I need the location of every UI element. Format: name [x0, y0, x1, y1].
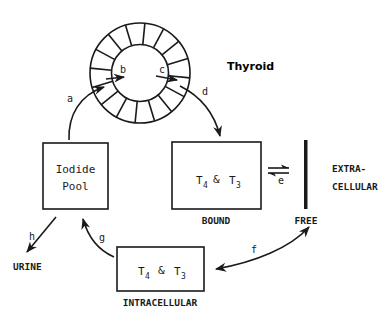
bound-caption: BOUND — [202, 215, 231, 226]
thyroid-cell-divider — [168, 76, 189, 78]
pathway-e-label: e — [278, 175, 284, 186]
intracellular-t4-sub: 4 — [145, 272, 150, 281]
thyroid-label: Thyroid — [227, 60, 274, 73]
thyroid-cell-divider — [116, 98, 126, 117]
bound-t4-sub: 4 — [203, 181, 208, 190]
bound-amp: & — [213, 173, 220, 186]
pathway-f-arrow — [216, 227, 309, 269]
intracellular-t4: T — [138, 265, 145, 278]
pathway-b-arrow — [106, 77, 124, 79]
thyroid-cell-divider — [162, 41, 179, 55]
thyroid-outer-ring — [90, 23, 190, 123]
pathway-g-label: g — [99, 232, 105, 243]
thyroid-cell-divider — [153, 29, 163, 48]
thyroid-cell-divider — [92, 81, 113, 87]
thyroid-cell-divider — [101, 91, 118, 105]
intracellular-t3-sub: 3 — [181, 272, 186, 281]
extracellular-line1: EXTRA- — [332, 163, 366, 174]
bound-t3-sub: 3 — [236, 181, 241, 190]
thyroid-cell-divider — [126, 25, 132, 46]
intracellular-t3: T — [174, 265, 181, 278]
thyroid-cell-divider — [90, 68, 111, 70]
cell-membrane-bar — [304, 140, 308, 209]
thyroid-cell-divider — [143, 23, 145, 44]
thyroid-cell-divider — [96, 49, 115, 59]
thyroid-hormone-diagram: Thyroid b c a d Iodide Pool T 4 & T 3 BO… — [0, 0, 385, 318]
pathway-d-label: d — [202, 86, 208, 97]
thyroid-follicle — [90, 23, 190, 123]
pathway-b-label: b — [120, 64, 126, 75]
thyroid-cell-divider — [165, 86, 184, 96]
thyroid-cell-divider — [135, 101, 137, 122]
pathway-c-label: c — [159, 64, 165, 75]
pathway-f-label: f — [251, 244, 257, 255]
thyroid-cell-divider — [148, 100, 154, 121]
intracellular-caption: INTRACELLULAR — [123, 297, 198, 308]
pathway-a-arrow — [69, 87, 104, 140]
iodide-pool-line1: Iodide — [56, 163, 96, 176]
thyroid-cell-divider — [158, 95, 172, 112]
extracellular-line2: CELLULAR — [332, 181, 378, 192]
iodide-pool-line2: Pool — [62, 180, 89, 193]
pathway-h-label: h — [29, 231, 35, 242]
bound-t4: T — [196, 174, 203, 187]
thyroid-cell-divider — [167, 59, 188, 65]
iodide-pool-box — [43, 143, 108, 209]
urine-caption: URINE — [13, 261, 42, 272]
intracellular-amp: & — [158, 264, 165, 277]
free-caption: FREE — [295, 215, 318, 226]
pathway-a-label: a — [67, 93, 73, 104]
thyroid-cell-divider — [108, 34, 122, 51]
bound-t3: T — [229, 174, 236, 187]
